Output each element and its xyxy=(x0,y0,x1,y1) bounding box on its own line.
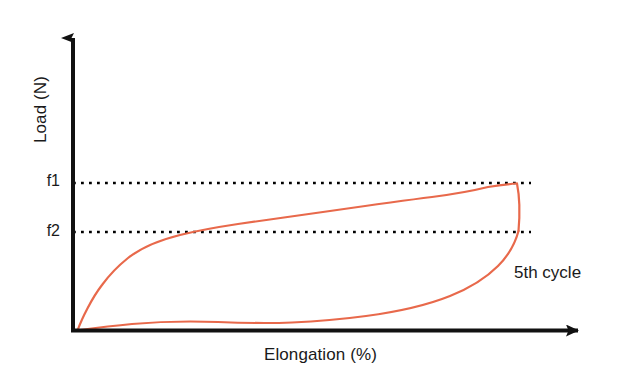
x-axis-title: Elongation (%) xyxy=(264,345,377,365)
y-tick-label-f1: f1 xyxy=(26,172,60,190)
y-axis-title: Load (N) xyxy=(31,76,51,143)
unload-drop-segment xyxy=(517,184,519,232)
chart-canvas xyxy=(0,0,626,383)
unloading-curve xyxy=(78,231,519,331)
cycle-annotation-label: 5th cycle xyxy=(514,263,581,283)
loading-curve xyxy=(78,184,518,331)
y-tick-label-f2: f2 xyxy=(26,222,60,240)
hysteresis-chart-figure: Load (N) Elongation (%) f1 f2 5th cycle xyxy=(0,0,626,383)
